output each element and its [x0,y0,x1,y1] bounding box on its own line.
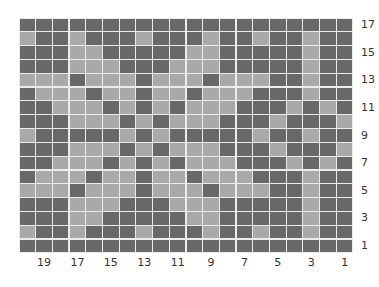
grid-cell [320,115,336,128]
grid-cell [287,226,303,239]
grid-cell [70,74,86,87]
grid-cell [220,171,236,184]
grid-cell [36,212,52,225]
grid-cell [270,184,286,197]
column-label: 11 [168,257,188,269]
grid-cell [53,143,69,156]
grid-cell [237,74,253,87]
grid-cell [120,115,136,128]
grid-cell [287,19,303,32]
grid-cell [287,240,303,253]
grid-cell [220,60,236,73]
grid-cell [320,171,336,184]
grid-cell [320,88,336,101]
grid-cell [303,60,319,73]
grid-cell [337,198,353,211]
grid-cell [320,240,336,253]
grid-cell [120,19,136,32]
grid-cell [303,198,319,211]
grid-cell [20,240,36,253]
grid-cell [337,226,353,239]
grid-cell [220,101,236,114]
grid-cell [36,60,52,73]
grid-cell [303,46,319,59]
grid-cell [220,240,236,253]
grid-cell [36,46,52,59]
grid-cell [303,212,319,225]
grid-cell [120,212,136,225]
grid-cell [287,198,303,211]
grid-cell [187,184,203,197]
grid-cell [320,19,336,32]
grid-cell [303,32,319,45]
grid-cell [253,115,269,128]
grid-cell [203,32,219,45]
grid-cell [187,240,203,253]
column-label: 19 [34,257,54,269]
grid-cell [86,88,102,101]
grid-cell [253,101,269,114]
grid-cell [20,60,36,73]
column-label: 5 [268,257,288,269]
grid-cell [270,143,286,156]
grid-cell [203,19,219,32]
grid-cell [20,74,36,87]
grid-cell [220,115,236,128]
grid-cell [170,143,186,156]
grid-cell [187,198,203,211]
grid-cell [237,60,253,73]
grid-cell [187,115,203,128]
grid-cell [337,240,353,253]
grid-cell [187,157,203,170]
grid-cell [153,184,169,197]
grid-cell [203,171,219,184]
row-label: 17 [361,19,375,31]
grid-cell [170,60,186,73]
grid-cell [270,198,286,211]
grid-cell [220,129,236,142]
grid-cell [287,32,303,45]
grid-cell [120,88,136,101]
grid-cell [187,129,203,142]
grid-cell [203,143,219,156]
grid-cell [253,198,269,211]
grid-cell [303,157,319,170]
grid-cell [253,226,269,239]
grid-cell [103,60,119,73]
row-label: 7 [361,157,368,169]
grid-cell [136,184,152,197]
grid-cell [287,74,303,87]
grid-cell [320,129,336,142]
grid-cell [153,198,169,211]
grid-cell [337,115,353,128]
grid-cell [20,101,36,114]
grid-cell [220,74,236,87]
grid-cell [253,19,269,32]
grid-cell [20,19,36,32]
grid-cell [153,171,169,184]
grid-cell [337,171,353,184]
grid-cell [20,157,36,170]
grid-cell [53,88,69,101]
grid-cell [86,198,102,211]
grid-cell [237,101,253,114]
grid-cell [103,74,119,87]
grid-cell [103,101,119,114]
grid-cell [320,143,336,156]
grid-cell [337,129,353,142]
grid-cell [153,19,169,32]
grid-cell [53,226,69,239]
column-label: 13 [134,257,154,269]
grid-cell [153,143,169,156]
grid-cell [270,157,286,170]
grid-cell [287,129,303,142]
grid-cell [153,32,169,45]
grid-cell [103,157,119,170]
grid-cell [20,129,36,142]
grid-cell [86,32,102,45]
grid-cell [270,88,286,101]
grid-cell [320,157,336,170]
grid-cell [136,115,152,128]
grid-cell [203,184,219,197]
grid-cell [237,143,253,156]
